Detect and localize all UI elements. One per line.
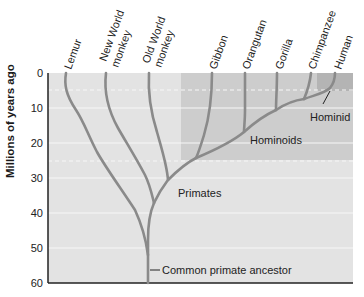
taxa-labels: Lemur New World monkey Old World monkey … <box>62 8 355 70</box>
y-axis-label: Millions of years ago <box>4 64 16 178</box>
y-tick: 50 <box>31 242 43 254</box>
taxon-label-human: Human <box>332 33 355 70</box>
group-label-hominoids: Hominoids <box>250 134 302 146</box>
y-tick: 10 <box>31 102 43 114</box>
y-axis-ticks: 0 10 20 30 40 50 60 <box>31 67 43 289</box>
taxon-label-gibbon: Gibbon <box>207 33 230 70</box>
group-label-hominid: Hominid <box>310 111 350 123</box>
common-ancestor-label: Common primate ancestor <box>162 264 292 276</box>
y-tick: 20 <box>31 137 43 149</box>
primate-evolution-diagram: 0 10 20 30 40 50 60 Lemur New World monk… <box>0 0 364 297</box>
y-tick: 30 <box>31 172 43 184</box>
y-tick: 60 <box>31 277 43 289</box>
y-tick: 40 <box>31 207 43 219</box>
branch-orangutan <box>244 73 245 132</box>
taxon-label-lemur: Lemur <box>62 37 84 71</box>
group-label-primates: Primates <box>178 187 222 199</box>
diagram-canvas: 0 10 20 30 40 50 60 Lemur New World monk… <box>0 0 364 297</box>
taxon-label-orangutan: Orangutan <box>240 18 269 71</box>
taxon-label-gorilla: Gorilla <box>273 36 295 71</box>
branch-gorilla <box>276 73 277 110</box>
y-tick: 0 <box>37 67 43 79</box>
